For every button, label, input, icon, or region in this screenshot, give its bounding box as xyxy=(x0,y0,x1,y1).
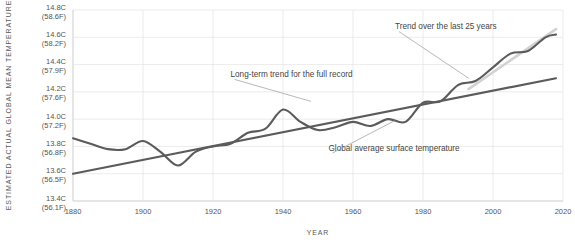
x-tick-label: 2000 xyxy=(485,207,502,216)
annotation-recent-trend: Trend over the last 25 years xyxy=(395,22,497,31)
y-tick-label-celsius: 13.4C xyxy=(46,194,67,203)
y-tick-label-fahrenheit: (57.2F) xyxy=(42,121,67,130)
y-tick-label-fahrenheit: (56.1F) xyxy=(42,203,67,212)
y-tick-label-celsius: 14.0C xyxy=(46,112,67,121)
y-axis-tick-labels: 13.4C(56.1F)13.6C(56.5F)13.8C(56.8F)14.0… xyxy=(42,3,67,212)
x-tick-label: 2020 xyxy=(555,207,572,216)
series-path xyxy=(73,35,556,166)
y-tick-label-celsius: 14.4C xyxy=(46,57,67,66)
y-tick-label-celsius: 13.8C xyxy=(46,139,67,148)
y-axis-title: ESTIMATED ACTUAL GLOBAL MEAN TEMPERATURE xyxy=(5,0,12,210)
y-tick-label-celsius: 14.8C xyxy=(46,3,67,12)
y-tick-label-fahrenheit: (57.6F) xyxy=(42,93,67,102)
x-tick-label: 1920 xyxy=(205,207,222,216)
x-axis-tick-labels: 18801900192019401960198020002020 xyxy=(65,207,572,216)
y-tick-label-fahrenheit: (58.2F) xyxy=(42,39,67,48)
gridlines xyxy=(73,10,563,201)
chart-canvas: 13.4C(56.1F)13.6C(56.5F)13.8C(56.8F)14.0… xyxy=(0,0,575,242)
annotation-long-term-trend: Long-term trend for the full record xyxy=(231,70,353,79)
x-axis-title: YEAR xyxy=(307,229,330,236)
x-tick-label: 1960 xyxy=(345,207,362,216)
y-tick-label-celsius: 14.6C xyxy=(46,30,67,39)
y-tick-label-fahrenheit: (57.9F) xyxy=(42,66,67,75)
y-tick-label-fahrenheit: (56.8F) xyxy=(42,148,67,157)
x-tick-label: 1900 xyxy=(135,207,152,216)
x-tick-label: 1940 xyxy=(275,207,292,216)
y-tick-label-fahrenheit: (56.5F) xyxy=(42,175,67,184)
data-series xyxy=(73,29,556,174)
y-tick-label-celsius: 13.6C xyxy=(46,166,67,175)
series-path xyxy=(73,78,556,174)
x-tick-label: 1880 xyxy=(65,207,82,216)
x-tick-label: 1980 xyxy=(415,207,432,216)
y-tick-label-fahrenheit: (58.6F) xyxy=(42,12,67,21)
annotation-recent-trend-leader xyxy=(399,32,469,79)
climate-chart: 13.4C(56.1F)13.6C(56.5F)13.8C(56.8F)14.0… xyxy=(0,0,575,242)
chart-annotations: Long-term trend for the full recordTrend… xyxy=(231,22,497,153)
axis-lines xyxy=(73,10,563,201)
annotation-long-term-trend-leader xyxy=(235,79,312,101)
y-tick-label-celsius: 14.2C xyxy=(46,84,67,93)
